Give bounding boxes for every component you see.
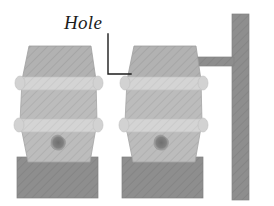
barrel-left: [14, 46, 103, 162]
barrel-right-hoop-lower: [125, 119, 202, 132]
barrel-left-top-stave: [22, 46, 96, 80]
hole-label: Hole: [64, 12, 102, 34]
pedestal-left: [17, 157, 98, 198]
diagram-canvas: [0, 0, 274, 206]
barrel-right-top-stave: [127, 46, 201, 80]
barrel-right-hoop-upper: [126, 77, 202, 90]
barrel-right: [119, 46, 208, 162]
post-vertical: [232, 14, 249, 200]
barrel-left-hoop-lower: [20, 119, 97, 132]
pedestal-right: [122, 157, 203, 198]
barrel-diagram-figure: Hole: [0, 0, 274, 206]
hole-leader-line: [108, 34, 131, 74]
barrel-left-hoop-upper: [21, 77, 97, 90]
